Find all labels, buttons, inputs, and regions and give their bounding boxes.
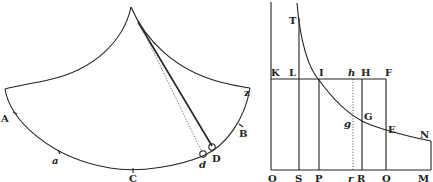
left-cheek-curve <box>5 7 131 89</box>
label-F: F <box>385 67 392 78</box>
label-R: R <box>357 173 366 182</box>
label-E: E <box>388 124 396 135</box>
right-cheek-curve <box>131 7 250 88</box>
label-g: g <box>344 118 351 129</box>
label-a: a <box>52 155 58 166</box>
label-d: d <box>199 159 206 170</box>
label-N: N <box>420 129 429 140</box>
pendulum-string <box>138 22 212 146</box>
label-A: A <box>0 113 9 124</box>
label-L: L <box>289 67 296 78</box>
label-C: C <box>129 173 137 182</box>
label-r: r <box>348 173 354 182</box>
geometry-diagram: A a C d D B z T K L I h H F g G E N O S <box>0 0 433 182</box>
label-h: h <box>348 67 355 78</box>
label-P: P <box>315 173 323 182</box>
label-D: D <box>212 153 221 164</box>
label-T: T <box>289 15 297 26</box>
cycloid-pendulum-figure: A a C d D B z <box>0 7 250 182</box>
label-K: K <box>271 67 280 78</box>
label-S: S <box>295 173 302 182</box>
label-H: H <box>361 67 370 78</box>
hyperbola-figure: T K L I h H F g G E N O S P r R Q M <box>268 2 431 182</box>
label-B: B <box>239 128 247 139</box>
label-M: M <box>418 173 429 182</box>
tick-B <box>239 124 243 127</box>
label-I: I <box>319 67 324 78</box>
pendulum-string-dotted <box>138 20 202 152</box>
label-Z: z <box>244 87 250 98</box>
label-G: G <box>364 111 373 122</box>
label-O: O <box>268 173 277 182</box>
label-Q: Q <box>382 173 391 182</box>
